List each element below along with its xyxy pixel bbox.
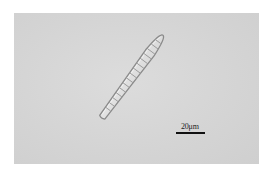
scale-bar-label: 20μm (181, 122, 199, 131)
diatom-specimen (0, 0, 269, 177)
scale-bar (176, 132, 205, 134)
